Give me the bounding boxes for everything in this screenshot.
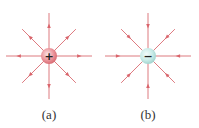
field-line xyxy=(153,61,175,83)
panel-a-positive-charge-field: + xyxy=(6,13,92,99)
field-arrow-icon xyxy=(77,54,82,58)
field-line xyxy=(54,61,76,83)
panel-a-label: (a) xyxy=(29,107,69,123)
field-arrow-icon xyxy=(146,84,150,89)
field-arrow-icon xyxy=(146,24,150,29)
panel-b-negative-charge-field: − xyxy=(105,13,191,99)
field-arrow-icon xyxy=(176,54,181,58)
field-arrow-icon xyxy=(47,84,51,89)
field-line xyxy=(153,29,175,51)
field-arrow-icon xyxy=(16,54,21,58)
minus-sign-icon: − xyxy=(143,50,152,63)
field-line xyxy=(121,61,143,83)
field-arrow-icon xyxy=(116,54,121,58)
field-line xyxy=(121,29,143,51)
field-arrow-icon xyxy=(47,23,51,28)
panel-b-label: (b) xyxy=(128,107,168,123)
field-line xyxy=(22,61,44,83)
plus-sign-icon: + xyxy=(44,50,53,63)
field-line xyxy=(22,29,44,51)
field-line xyxy=(54,29,76,51)
